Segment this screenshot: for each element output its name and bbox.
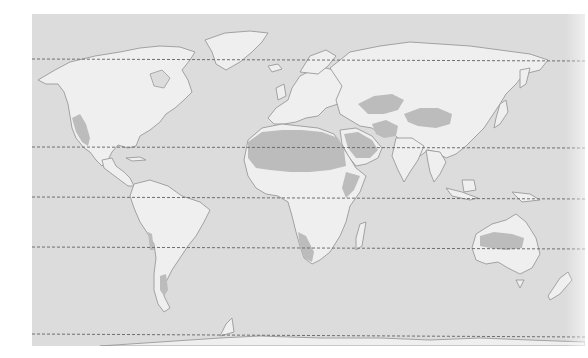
edge-fade (565, 14, 585, 346)
sahara (248, 130, 346, 172)
world-map (32, 14, 585, 346)
map-canvas (32, 14, 585, 346)
borneo (462, 180, 476, 192)
